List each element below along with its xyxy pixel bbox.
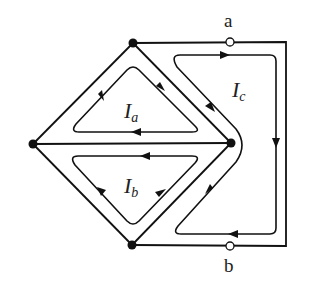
- current-Ib-label: Ib: [123, 173, 138, 200]
- arrow-icon: [205, 102, 215, 112]
- wire-top-left: [33, 43, 133, 144]
- circuit-diagram: a b Ia Ib Ic: [0, 0, 314, 290]
- terminal-b-label: b: [224, 255, 234, 276]
- arrow-icon: [97, 187, 106, 196]
- wire-left-bottom: [33, 144, 132, 245]
- node-top: [129, 39, 138, 48]
- arrow-icon: [131, 128, 141, 136]
- wire-left-right: [33, 143, 231, 144]
- node-right: [227, 139, 236, 148]
- arrow-icon: [272, 138, 280, 148]
- current-Ia-label: Ia: [123, 98, 138, 125]
- circuit-wires: [33, 42, 286, 246]
- mesh-loop-Ia: [74, 67, 198, 136]
- terminal-b: [226, 242, 234, 250]
- arrow-icon: [220, 51, 230, 59]
- node-left: [29, 140, 38, 149]
- arrow-icon: [140, 152, 150, 160]
- arrow-icon: [156, 82, 165, 91]
- wire-top-right: [133, 43, 231, 143]
- node-bottom: [128, 241, 137, 250]
- arrow-icon: [228, 230, 238, 238]
- current-Ic-label: Ic: [231, 77, 246, 104]
- terminal-a: [226, 38, 234, 46]
- terminal-a-label: a: [224, 10, 233, 31]
